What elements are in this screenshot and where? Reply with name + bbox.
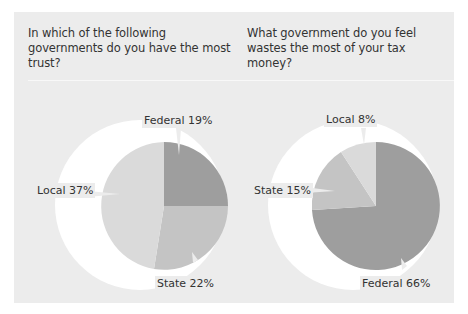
pie-1-slice-federal [164, 142, 228, 206]
pie-2-label-local: Local 8% [324, 112, 377, 127]
pie-1-slice-state [154, 206, 228, 270]
pie-1-label-federal: Federal 19% [142, 113, 215, 128]
pie-2-label-federal: Federal 66% [360, 276, 433, 291]
pie-2-label-state: State 15% [252, 183, 313, 198]
pie-charts [0, 0, 468, 314]
pie-1-label-local: Local 37% [35, 183, 95, 198]
pie-1-label-state: State 22% [155, 276, 216, 291]
